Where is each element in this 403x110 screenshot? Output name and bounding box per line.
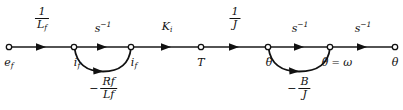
gain-1-numerator: 1 [35, 6, 49, 18]
branch-gain-s-inverse-2: s−1 [292, 21, 309, 34]
node-label-omega: θ . = ω [322, 57, 352, 68]
node-label-if-1-sub: f [77, 61, 80, 70]
feedback-loop-damping-arc [269, 48, 331, 72]
node-label-theta-d-main: θ . [322, 57, 329, 68]
node-label-theta: θ [392, 57, 399, 68]
node-label-ef: ef [4, 57, 13, 70]
gain-6-exponent: −1 [360, 20, 371, 29]
feedback-gain-B-over-J: − B J [287, 76, 310, 100]
branch-gain-1-over-Lf: 1 Lf [35, 6, 49, 31]
node-if-2 [128, 44, 133, 49]
node-torque [198, 44, 203, 49]
arrowhead-branch-1 [36, 43, 46, 51]
node-label-if-1: if [74, 57, 80, 70]
omega-symbol: ω [343, 56, 352, 69]
node-label-torque: T [197, 57, 204, 68]
node-label-torque-main: T [197, 56, 204, 69]
arrowhead-branch-4 [229, 43, 239, 51]
node-if-1 [71, 44, 76, 49]
signal-flow-graph-canvas [0, 0, 403, 110]
gain-3-base: K [162, 20, 170, 33]
node-ef [6, 44, 11, 49]
node-label-if-2: if [131, 57, 137, 70]
gain-1-denominator: Lf [35, 18, 49, 32]
arrowhead-branch-2 [97, 43, 107, 51]
feedback-1-sign: − [89, 83, 100, 94]
gain-4-denominator: J [230, 18, 241, 31]
gain-5-exponent: −1 [297, 20, 308, 29]
arrowhead-branch-6 [357, 43, 367, 51]
feedback-2-denominator: J [299, 88, 311, 101]
node-label-theta-dd-main: θ .. [266, 57, 273, 68]
single-dot-accent-icon: . [324, 52, 327, 61]
node-label-theta-main: θ [392, 56, 399, 69]
feedback-gain-Rf-over-Lf: − Rf Lf [89, 76, 117, 100]
node-theta-double-dot [265, 44, 270, 49]
gain-4-numerator: 1 [230, 6, 241, 18]
node-label-if-2-sub: f [134, 61, 137, 70]
double-dot-accent-icon: .. [266, 52, 272, 61]
arrowhead-branch-3 [161, 43, 171, 51]
node-label-theta-double-dot: θ .. [266, 57, 273, 68]
feedback-loop-field-arc [75, 48, 132, 72]
branch-gain-s-inverse-1: s−1 [95, 21, 112, 34]
node-theta [392, 44, 397, 49]
branch-gain-s-inverse-3: s−1 [355, 21, 372, 34]
branch-gain-Ki: Ki [162, 21, 173, 34]
arrowhead-branch-5 [294, 43, 304, 51]
branch-gain-1-over-J: 1 J [230, 6, 241, 30]
gain-2-exponent: −1 [100, 20, 111, 29]
gain-3-subscript: i [170, 25, 172, 34]
feedback-2-sign: − [287, 83, 298, 94]
signal-flow-graph-figure: 1 Lf s−1 Ki 1 J s−1 s−1 ef if if T θ .. [0, 0, 403, 110]
feedback-2-numerator: B [299, 76, 311, 88]
node-theta-dot [327, 44, 332, 49]
node-label-ef-sub: f [11, 61, 14, 70]
equals-sign: = [328, 57, 343, 68]
feedback-1-numerator: Rf [100, 76, 116, 88]
feedback-1-denominator: Lf [100, 88, 116, 101]
